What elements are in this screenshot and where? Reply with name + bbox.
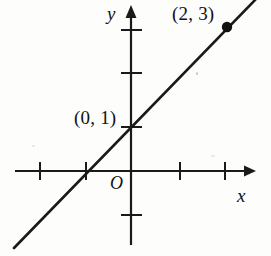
point-label-2-3: (2, 3) bbox=[172, 4, 214, 23]
x-axis-arrowhead bbox=[244, 166, 256, 177]
x-axis-label: x bbox=[237, 186, 245, 205]
point-label-0-1: (0, 1) bbox=[74, 108, 116, 127]
scan-artifact-speck bbox=[196, 72, 198, 75]
data-point-marker-2-3 bbox=[222, 22, 232, 32]
scan-artifact-speck bbox=[211, 155, 215, 157]
coordinate-plane bbox=[0, 0, 271, 256]
y-axis-arrowhead bbox=[126, 5, 137, 18]
scan-artifact-speck bbox=[32, 145, 35, 147]
origin-label: O bbox=[110, 174, 123, 192]
y-axis-label: y bbox=[107, 4, 115, 23]
line-series-y-equals-x-plus-1 bbox=[14, 0, 257, 248]
graph-figure: (0, 1) (2, 3) O x y bbox=[0, 0, 271, 256]
